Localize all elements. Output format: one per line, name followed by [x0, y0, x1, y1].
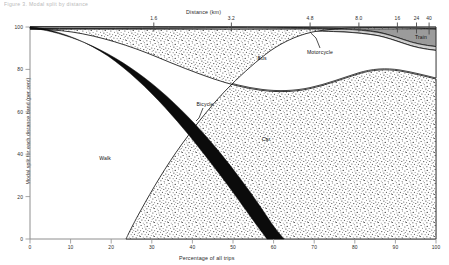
y-axis-ticks — [26, 27, 31, 239]
distance-tick-label: 3.2 — [228, 16, 235, 21]
distance-tick-label: 1.6 — [150, 16, 157, 21]
y-tick-label: 60 — [8, 109, 23, 114]
area-label-bus: Bus — [257, 55, 266, 61]
y-tick-label: 0 — [8, 237, 23, 242]
distance-tick-label: 24 — [414, 16, 420, 21]
y-tick-label: 40 — [8, 152, 23, 157]
distance-tick-label: 40 — [426, 16, 432, 21]
area-label-walk: Walk — [99, 155, 111, 161]
x-tick-label: 0 — [29, 245, 32, 250]
y-tick-label: 100 — [8, 25, 23, 30]
x-tick-label: 90 — [393, 245, 399, 250]
area-label-motorcycle: Motorcycle — [307, 49, 333, 55]
area-label-car: Car — [262, 136, 271, 142]
x-tick-label: 20 — [108, 245, 114, 250]
distance-tick-label: 16 — [395, 16, 401, 21]
y-tick-label: 80 — [8, 67, 23, 72]
distance-tick-label: 8.0 — [355, 16, 362, 21]
x-tick-label: 80 — [352, 245, 358, 250]
x-tick-label: 70 — [311, 245, 317, 250]
area-label-train: Train — [415, 34, 427, 40]
y-tick-label: 20 — [8, 194, 23, 199]
x-tick-label: 10 — [68, 245, 74, 250]
chart-figure: Figure 3. Modal split by distance Distan… — [0, 0, 449, 265]
x-tick-label: 100 — [432, 245, 440, 250]
x-tick-label: 40 — [190, 245, 196, 250]
x-tick-label: 60 — [271, 245, 277, 250]
x-tick-label: 50 — [230, 245, 236, 250]
x-tick-label: 30 — [149, 245, 155, 250]
area-label-bicycle: Bicycle — [196, 101, 213, 107]
x-axis-ticks — [30, 239, 436, 244]
stacked-area-plot — [0, 0, 449, 265]
distance-tick-label: 4.8 — [307, 16, 314, 21]
